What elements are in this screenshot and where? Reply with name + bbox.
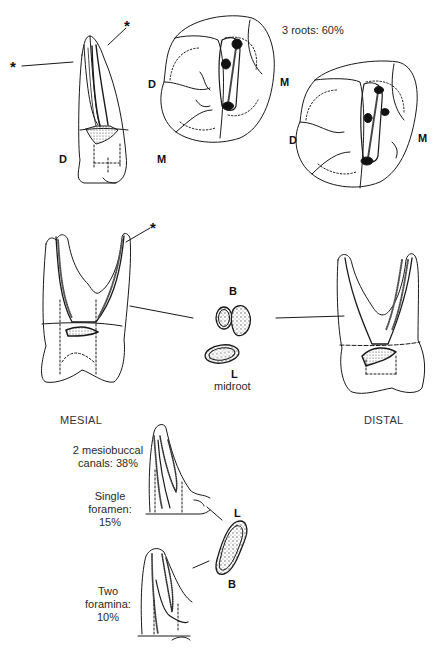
single-foramen-tooth bbox=[146, 425, 210, 514]
midroot-cross-section bbox=[204, 306, 250, 366]
two-foramina-line3: 10% bbox=[78, 611, 138, 624]
distal-view-caption: DISTAL bbox=[364, 414, 404, 426]
mesiobuccal-canals-caption: 2 mesiobuccal canals: 38% bbox=[70, 444, 146, 470]
buccal-view-tooth bbox=[78, 36, 128, 183]
two-foramina-line1: Two bbox=[78, 585, 138, 598]
single-foramen-caption: Single foramen: 15% bbox=[80, 490, 140, 529]
pointer-line bbox=[130, 306, 193, 318]
two-foramina-caption: Two foramina: 10% bbox=[78, 585, 138, 624]
variant-buccal-label: B bbox=[228, 578, 236, 591]
mesiobuccal-caption-line1: 2 mesiobuccal bbox=[70, 444, 146, 457]
diagram-canvas bbox=[0, 0, 434, 649]
mesial-view-caption: MESIAL bbox=[60, 414, 102, 426]
occlusal-2-distal-label: D bbox=[289, 134, 297, 147]
star-marker-mesial-view: * bbox=[150, 220, 156, 235]
buccal-view-mesial-label: M bbox=[157, 153, 166, 166]
pointer-line bbox=[22, 62, 73, 66]
mesiobuccal-caption-line2: canals: 38% bbox=[70, 457, 146, 470]
mesial-view-tooth bbox=[42, 234, 131, 383]
three-roots-caption: 3 roots: 60% bbox=[282, 24, 344, 37]
single-foramen-line1: Single bbox=[80, 490, 140, 503]
occlusal-1-mesial-label: M bbox=[280, 76, 289, 89]
star-marker-distobuccal: * bbox=[10, 59, 16, 74]
occlusal-view-1 bbox=[161, 16, 274, 142]
occlusal-2-mesial-label: M bbox=[418, 132, 427, 145]
cross-section-buccal-label: B bbox=[229, 285, 237, 298]
pointer-line bbox=[276, 316, 344, 318]
occlusal-1-distal-label: D bbox=[148, 78, 156, 91]
pointer-line bbox=[126, 228, 150, 242]
cross-section-level-label: midroot bbox=[214, 380, 251, 393]
single-foramen-line2: foramen: bbox=[80, 503, 140, 516]
distal-view-tooth bbox=[337, 254, 424, 394]
single-foramen-line3: 15% bbox=[80, 516, 140, 529]
pointer-line bbox=[193, 561, 209, 568]
variant-lingual-label: L bbox=[234, 507, 241, 520]
occlusal-view-2 bbox=[296, 61, 417, 188]
two-foramina-tooth bbox=[138, 549, 192, 640]
buccal-view-distal-label: D bbox=[59, 153, 67, 166]
pointer-line bbox=[207, 507, 222, 520]
mesiobuccal-cross-section bbox=[216, 521, 247, 574]
two-foramina-line2: foramina: bbox=[78, 598, 138, 611]
star-marker-mesiobuccal: * bbox=[124, 18, 130, 33]
